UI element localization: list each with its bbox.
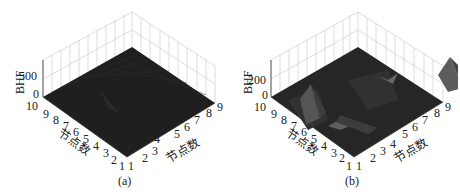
right-tick-a: 9 <box>217 101 223 113</box>
right-tick-a: 6 <box>184 121 190 133</box>
left-tick-b: 3 <box>331 147 337 159</box>
chart-panel-b: BHF 200 0 10 9 8 7 6 5 4 3 2 1 节点数 1 2 3… <box>228 0 458 195</box>
right-tick-a: 3 <box>152 145 158 157</box>
left-tick-b: 2 <box>339 152 345 164</box>
left-tick-a: 2 <box>111 154 117 166</box>
chart-panel-a: BHF 500 0 10 9 8 7 6 5 4 3 2 1 节点数 1 2 3… <box>0 0 230 195</box>
right-tick-a: 4 <box>154 133 160 145</box>
caption-a: (a) <box>118 175 131 187</box>
right-tick-b: 6 <box>412 121 418 133</box>
left-tick-a: 3 <box>103 147 109 159</box>
right-tick-b: 1 <box>356 160 362 172</box>
right-tick-b: 8 <box>434 107 440 119</box>
left-tick-a: 10 <box>26 100 38 112</box>
right-tick-b: 7 <box>422 114 428 126</box>
right-tick-b: 2 <box>370 152 376 164</box>
right-tick-a: 5 <box>174 128 180 140</box>
left-tick-b: 10 <box>254 101 266 113</box>
right-tick-b: 5 <box>402 128 408 140</box>
left-tick-b: 1 <box>346 160 352 172</box>
z-tick-200-b: 200 <box>248 74 266 86</box>
left-tick-b: 4 <box>321 140 327 152</box>
left-tick-a: 4 <box>93 140 99 152</box>
left-tick-b: 8 <box>281 114 287 126</box>
right-tick-b: 4 <box>390 138 396 150</box>
right-tick-a: 1 <box>128 160 134 172</box>
left-tick-a: 8 <box>53 114 59 126</box>
left-tick-b: 9 <box>271 108 277 120</box>
right-tick-b: 3 <box>380 145 386 157</box>
left-tick-a: 9 <box>43 108 49 120</box>
right-tick-a: 8 <box>206 107 212 119</box>
caption-b: (b) <box>345 175 359 187</box>
right-tick-a: 7 <box>194 114 200 126</box>
right-tick-b: 9 <box>445 101 451 113</box>
z-tick-500-a: 500 <box>19 70 37 82</box>
left-tick-a: 1 <box>119 160 125 172</box>
right-tick-a: 2 <box>142 152 148 164</box>
